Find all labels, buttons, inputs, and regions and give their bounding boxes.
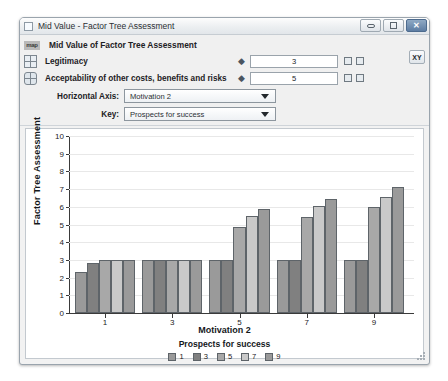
application-window: Mid Value - Factor Tree Assessment ✕ map… bbox=[19, 17, 430, 365]
chevron-down-icon bbox=[261, 94, 269, 99]
legend-item: 3 bbox=[193, 352, 208, 361]
legend-swatch bbox=[168, 353, 176, 361]
y-tick-label: 10 bbox=[55, 132, 64, 141]
gridline bbox=[69, 136, 414, 137]
chart-bar bbox=[142, 260, 154, 313]
parameter-label: Acceptability of other costs, benefits a… bbox=[45, 74, 227, 83]
subtitle-row: map Mid Value of Factor Tree Assessment bbox=[20, 38, 429, 52]
y-tick bbox=[66, 295, 69, 296]
chart-bar bbox=[209, 260, 221, 313]
chart-bar bbox=[277, 260, 289, 313]
parameter-label: Legitimacy bbox=[45, 57, 88, 66]
chart-bar bbox=[75, 272, 87, 313]
key-value: Prospects for success bbox=[125, 108, 275, 121]
grid-rounded-icon[interactable] bbox=[24, 72, 37, 85]
y-tick bbox=[66, 313, 69, 314]
close-icon: ✕ bbox=[413, 22, 420, 30]
y-tick-label: 3 bbox=[60, 255, 64, 264]
chart-bar bbox=[289, 260, 301, 313]
chart-bar bbox=[233, 227, 245, 313]
close-button[interactable]: ✕ bbox=[406, 19, 427, 32]
key-select[interactable]: Prospects for success bbox=[124, 107, 276, 121]
legend-label: 3 bbox=[204, 352, 208, 361]
minimize-icon bbox=[367, 24, 375, 28]
gridline bbox=[69, 207, 414, 208]
y-tick bbox=[66, 171, 69, 172]
paste-icon[interactable] bbox=[356, 74, 364, 82]
legitimacy-input[interactable]: 3 bbox=[250, 55, 338, 68]
y-tick bbox=[66, 136, 69, 137]
chevron-down-icon bbox=[261, 112, 269, 117]
window-icon bbox=[24, 22, 33, 31]
y-tick-label: 5 bbox=[60, 220, 64, 229]
legend-label: 5 bbox=[228, 352, 232, 361]
chart-bar bbox=[99, 260, 111, 313]
chart-bar bbox=[87, 263, 99, 313]
chart-bar bbox=[380, 197, 392, 313]
grid-icon[interactable] bbox=[24, 55, 37, 68]
y-tick bbox=[66, 189, 69, 190]
paste-icon[interactable] bbox=[356, 57, 364, 65]
plot-area: 01234567891013579 bbox=[69, 136, 414, 314]
gridline bbox=[69, 225, 414, 226]
y-axis-title: Factor Tree Assessment bbox=[32, 117, 42, 225]
legend-title: Prospects for success bbox=[26, 339, 423, 349]
chart-panel: Factor Tree Assessment 01234567891013579… bbox=[25, 128, 424, 359]
y-tick bbox=[66, 242, 69, 243]
chart-bar bbox=[356, 260, 368, 313]
chart-bar bbox=[166, 260, 178, 313]
gridline bbox=[69, 171, 414, 172]
window-controls: ✕ bbox=[360, 19, 427, 32]
horizontal-axis-value: Motivation 2 bbox=[125, 90, 275, 103]
y-tick-label: 9 bbox=[60, 149, 64, 158]
chart-bar bbox=[190, 260, 202, 313]
maximize-button[interactable] bbox=[383, 19, 404, 32]
chart-bar bbox=[325, 199, 337, 313]
legend-item: 9 bbox=[265, 352, 280, 361]
parameter-row-acceptability: Acceptability of other costs, benefits a… bbox=[20, 70, 429, 86]
key-row: Key: Prospects for success bbox=[20, 106, 429, 122]
y-tick bbox=[66, 260, 69, 261]
y-tick bbox=[66, 278, 69, 279]
gridline bbox=[69, 154, 414, 155]
legend-label: 7 bbox=[252, 352, 256, 361]
y-tick-label: 8 bbox=[60, 167, 64, 176]
spinner-icon[interactable]: ◆ bbox=[237, 57, 246, 66]
y-tick bbox=[66, 207, 69, 208]
x-axis-line bbox=[69, 313, 414, 314]
horizontal-axis-label: Horizontal Axis: bbox=[20, 92, 124, 101]
horizontal-axis-row: Horizontal Axis: Motivation 2 bbox=[20, 88, 429, 104]
chart-bar bbox=[258, 209, 270, 313]
y-tick bbox=[66, 154, 69, 155]
y-tick-label: 6 bbox=[60, 202, 64, 211]
resize-grip[interactable] bbox=[417, 352, 427, 362]
copy-icon[interactable] bbox=[344, 57, 352, 65]
chart-bar bbox=[221, 260, 233, 313]
chart-bar bbox=[178, 260, 190, 313]
copy-icon[interactable] bbox=[344, 74, 352, 82]
legend-swatch bbox=[193, 353, 201, 361]
acceptability-input[interactable]: 5 bbox=[250, 72, 338, 85]
xy-toggle-button[interactable]: XY bbox=[409, 50, 425, 64]
legend-swatch bbox=[265, 353, 273, 361]
panel-subtitle: Mid Value of Factor Tree Assessment bbox=[49, 40, 197, 50]
maximize-icon bbox=[390, 22, 397, 29]
window-title-bar[interactable]: Mid Value - Factor Tree Assessment ✕ bbox=[20, 18, 429, 35]
parameter-row-legitimacy: Legitimacy ◆ 3 bbox=[20, 53, 429, 69]
x-axis-title: Motivation 2 bbox=[26, 325, 423, 335]
chart-bar bbox=[154, 260, 166, 313]
control-panel: map Mid Value of Factor Tree Assessment … bbox=[20, 35, 429, 126]
legend-item: 1 bbox=[168, 352, 183, 361]
chart-bar bbox=[301, 217, 313, 313]
chart-bar bbox=[392, 187, 404, 313]
minimize-button[interactable] bbox=[360, 19, 381, 32]
chart-bar bbox=[313, 206, 325, 313]
horizontal-axis-select[interactable]: Motivation 2 bbox=[124, 89, 276, 103]
chart-bar bbox=[246, 216, 258, 313]
spinner-icon[interactable]: ◆ bbox=[237, 74, 246, 83]
legend-label: 9 bbox=[276, 352, 280, 361]
chart-legend: Prospects for success 13579 bbox=[26, 339, 423, 361]
legend-swatch bbox=[217, 353, 225, 361]
legend-label: 1 bbox=[179, 352, 183, 361]
chart-bar bbox=[344, 260, 356, 313]
